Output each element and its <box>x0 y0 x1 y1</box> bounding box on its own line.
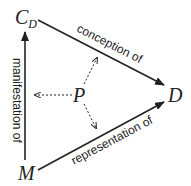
arrow-conception <box>38 20 164 85</box>
label-representation: representation of <box>69 113 156 168</box>
node-m: M <box>17 162 36 184</box>
arrow-representation <box>38 102 164 170</box>
dotted-arrow-up <box>84 58 97 84</box>
node-cd: CD <box>15 6 37 31</box>
dotted-arrow-down <box>84 104 96 128</box>
label-manifestation: manifestation of <box>10 58 24 143</box>
triangle-diagram: CD D M P conception of representation of… <box>0 0 191 186</box>
node-p: P <box>72 84 85 106</box>
node-d: D <box>167 84 183 106</box>
diagram: CD D M P conception of representation of… <box>0 0 191 186</box>
